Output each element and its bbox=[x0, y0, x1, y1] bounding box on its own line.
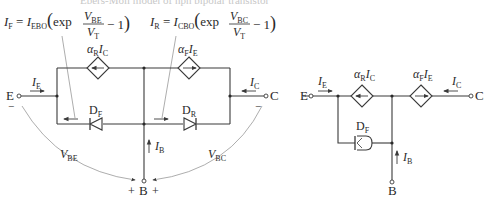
current-source-alpha-f-ie bbox=[178, 57, 200, 79]
equation-if-tail: − 1) bbox=[107, 13, 130, 34]
minus-sign-e: − bbox=[8, 100, 14, 112]
terminal-c bbox=[469, 94, 473, 98]
label-ib: IB bbox=[402, 150, 412, 166]
label-df: DF bbox=[356, 119, 370, 135]
ebers-moll-diagram: IF = IEBO(exp VBE VT − 1) IR = ICBO(exp … bbox=[0, 0, 491, 198]
label-ic: IC bbox=[249, 75, 259, 91]
label-alpha-f-ie: αFIE bbox=[413, 67, 433, 83]
minus-sign-c: − bbox=[255, 100, 261, 112]
equation-if: IF = IEBO(exp bbox=[3, 10, 72, 31]
equation-ir: IR = ICBO(exp bbox=[149, 10, 219, 31]
label-terminal-e: E bbox=[300, 88, 308, 103]
label-vbe: VBE bbox=[60, 147, 78, 163]
terminal-e bbox=[17, 94, 21, 98]
label-terminal-c: C bbox=[270, 88, 279, 103]
left-circuit: IF = IEBO(exp VBE VT − 1) IR = ICBO(exp … bbox=[3, 9, 279, 198]
current-source-alpha-r-ic bbox=[351, 85, 373, 107]
terminal-c bbox=[264, 94, 268, 98]
junction-dot bbox=[228, 94, 231, 97]
label-vbc: VBC bbox=[208, 147, 226, 163]
diode-df bbox=[90, 118, 102, 130]
arc-vbc bbox=[153, 106, 262, 180]
leader-line-ir bbox=[162, 36, 176, 118]
junction-dot bbox=[55, 94, 58, 97]
label-ie: IE bbox=[31, 75, 41, 91]
label-alpha-r-ic: αRIC bbox=[354, 67, 375, 83]
label-terminal-c: C bbox=[475, 88, 484, 103]
label-dr: DR bbox=[182, 103, 197, 119]
equation-ir-denominator: VT bbox=[233, 25, 245, 41]
label-alpha-r-ic: αRIC bbox=[87, 42, 108, 58]
plus-sign-vbe: + bbox=[128, 184, 135, 198]
diode-df bbox=[355, 136, 372, 150]
junction-dot bbox=[336, 94, 339, 97]
label-df: DF bbox=[89, 103, 103, 119]
junction-dot bbox=[142, 66, 145, 69]
label-alpha-f-ie: αFIE bbox=[178, 42, 198, 58]
junction-dot bbox=[142, 122, 145, 125]
equation-if-denominator: VT bbox=[87, 25, 99, 41]
current-source-alpha-r-ic bbox=[87, 57, 109, 79]
current-source-alpha-f-ie bbox=[410, 85, 432, 107]
equation-ir-numerator: VBC bbox=[230, 9, 248, 25]
equation-if-numerator: VBE bbox=[84, 9, 102, 25]
right-circuit: αRIC αFIE DF E C B IE IC IB bbox=[300, 67, 484, 198]
equation-ir-tail: − 1) bbox=[253, 13, 276, 34]
leader-line-if bbox=[62, 36, 75, 118]
junction-dot bbox=[390, 94, 393, 97]
label-terminal-b: B bbox=[388, 183, 397, 198]
label-ib: IB bbox=[154, 139, 164, 155]
terminal-e bbox=[309, 94, 313, 98]
df-branch bbox=[338, 96, 355, 143]
label-ic: IC bbox=[451, 74, 461, 90]
plus-sign-vbc: + bbox=[152, 184, 159, 198]
diode-dr bbox=[184, 118, 196, 130]
arc-vbe bbox=[22, 106, 135, 180]
label-ie: IE bbox=[317, 74, 327, 90]
label-terminal-b: B bbox=[139, 183, 148, 198]
junction-dot bbox=[390, 141, 393, 144]
